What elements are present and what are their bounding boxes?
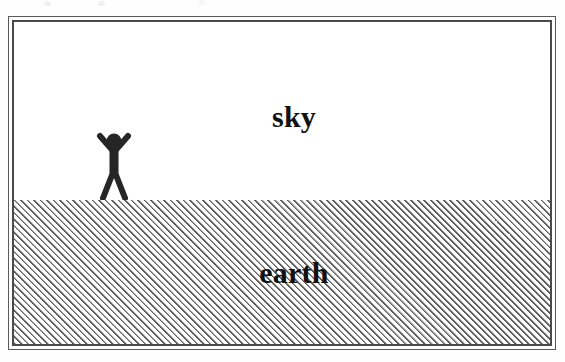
scan-artifact xyxy=(198,0,205,5)
diagram-inner-border: sky earth xyxy=(12,20,552,346)
stick-figure-person-icon xyxy=(88,122,140,200)
scan-artifact xyxy=(44,1,51,6)
scan-artifact xyxy=(98,1,105,6)
earth-label: earth xyxy=(14,258,550,288)
diagram-canvas: sky earth xyxy=(0,0,565,362)
